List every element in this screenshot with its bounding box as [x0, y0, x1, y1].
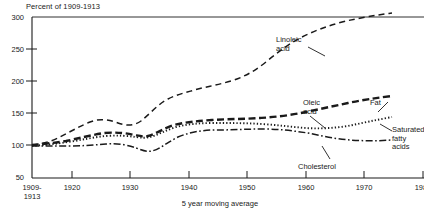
- leader-line-oleic-acid: [310, 116, 325, 128]
- leader-line-linoleic-acid: [308, 47, 325, 56]
- series-line-linoleic-acid: [32, 13, 392, 145]
- chart-series: [32, 13, 392, 151]
- series-line-cholesterol: [32, 129, 392, 151]
- chart-axes: [26, 17, 424, 178]
- leader-line-fat: [378, 102, 388, 112]
- chart-container: Percent of 1909-1913 300 250 200 150 100…: [0, 0, 424, 218]
- series-line-saturated-fatty-acids: [32, 117, 392, 146]
- leader-line-saturated-fatty-acids: [380, 124, 392, 131]
- leader-line-cholesterol: [322, 146, 330, 159]
- x-axis-ticks: [72, 171, 423, 178]
- series-line-oleic-acid-and-fat: [32, 96, 392, 145]
- chart-plot-area: [0, 0, 424, 218]
- annotation-leader-lines: [308, 47, 392, 159]
